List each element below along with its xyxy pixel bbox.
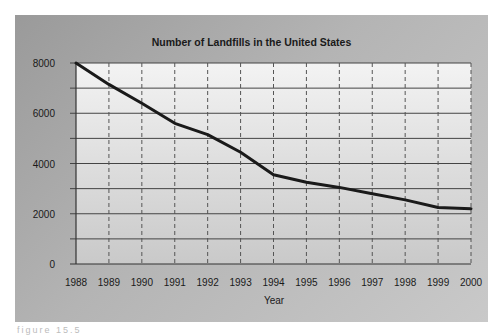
y-tick-labels: 02000400060008000 <box>33 58 56 270</box>
figure-caption: figure 15.5 <box>17 325 82 335</box>
x-tick-label: 1994 <box>262 277 285 288</box>
x-tick-label: 2000 <box>460 277 483 288</box>
x-tick-label: 1989 <box>98 277 121 288</box>
x-axis-label: Year <box>264 295 285 306</box>
x-tick-label: 1991 <box>164 277 187 288</box>
y-tick-label: 4000 <box>33 159 56 170</box>
x-tick-labels: 1988198919901991199219931994199519961997… <box>65 277 483 288</box>
line-chart: 02000400060008000 1988198919901991199219… <box>0 0 499 336</box>
x-tick-label: 1988 <box>65 277 88 288</box>
x-tick-label: 1992 <box>197 277 220 288</box>
x-tick-label: 1997 <box>361 277 384 288</box>
x-tick-label: 1995 <box>295 277 318 288</box>
y-tick-label: 6000 <box>33 108 56 119</box>
x-tick-label: 1990 <box>131 277 154 288</box>
y-tick-label: 8000 <box>33 58 56 69</box>
x-tick-label: 1998 <box>394 277 417 288</box>
x-tick-label: 1993 <box>229 277 252 288</box>
x-tick-label: 1999 <box>427 277 450 288</box>
y-tick-label: 2000 <box>33 209 56 220</box>
x-tick-label: 1996 <box>328 277 351 288</box>
y-tick-label: 0 <box>49 259 55 270</box>
